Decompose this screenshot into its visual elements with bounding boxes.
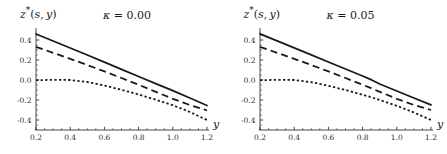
series-line-solid (260, 34, 431, 105)
y-tick-label: -0.4 (17, 116, 32, 125)
x-tick-label: 0.6 (98, 133, 110, 142)
y-tick-label: 0.4 (20, 36, 32, 45)
y-tick-label: 0.0 (243, 76, 255, 85)
x-axis-name: y (212, 118, 220, 131)
x-tick-label: 1.2 (201, 133, 213, 142)
panel-left-kappa-annotation: κ = 0.00 (103, 9, 151, 22)
panel-left-ylabel: z*(s, y) (20, 8, 56, 21)
series-line-dashed (260, 47, 431, 110)
x-tick-label: 0.8 (356, 133, 368, 142)
x-tick-label: 0.2 (254, 133, 266, 142)
series-line-dashed (36, 47, 207, 111)
x-tick-label: 0.4 (288, 133, 300, 142)
panel-left-plot-area: 0.20.40.60.81.01.20.40.20.0-0.2-0.4y (0, 26, 224, 154)
panel-left-header: z*(s, y) κ = 0.00 (0, 8, 224, 28)
panel-right-kappa-annotation: κ = 0.05 (327, 9, 375, 22)
y-tick-label: -0.2 (241, 96, 256, 105)
chart-panel-left: z*(s, y) κ = 0.00 0.20.40.60.81.01.20.40… (0, 0, 224, 154)
x-tick-label: 1.0 (390, 133, 402, 142)
series-line-dotted (36, 80, 207, 120)
kappa-value-right: 0.05 (350, 9, 375, 22)
kappa-symbol-left: κ (103, 9, 110, 22)
y-tick-label: 0.4 (243, 36, 255, 45)
kappa-equals-right: = (337, 9, 346, 22)
y-tick-label: 0.2 (243, 56, 255, 65)
series-line-dotted (260, 80, 431, 120)
x-tick-label: 0.6 (322, 133, 334, 142)
figure-two-panel-line-chart: z*(s, y) κ = 0.00 0.20.40.60.81.01.20.40… (0, 0, 447, 154)
panel-right-plot-area: 0.20.40.60.81.01.20.40.20.0-0.2-0.4y (224, 26, 447, 154)
kappa-equals-left: = (114, 9, 123, 22)
series-line-solid (36, 34, 207, 106)
panel-left-svg: 0.20.40.60.81.01.20.40.20.0-0.2-0.4y (0, 26, 224, 154)
panel-right-ylabel: z*(s, y) (244, 8, 280, 21)
y-tick-label: -0.2 (17, 96, 32, 105)
x-tick-label: 0.8 (133, 133, 145, 142)
y-tick-label: 0.2 (20, 56, 32, 65)
y-tick-label: -0.4 (241, 116, 256, 125)
x-tick-label: 0.4 (64, 133, 76, 142)
kappa-symbol-right: κ (327, 9, 334, 22)
kappa-value-left: 0.00 (126, 9, 151, 22)
x-tick-label: 1.0 (167, 133, 179, 142)
x-tick-label: 0.2 (30, 133, 42, 142)
x-axis-name: y (436, 118, 444, 131)
x-tick-label: 1.2 (425, 133, 437, 142)
panel-right-header: z*(s, y) κ = 0.05 (224, 8, 447, 28)
panel-right-svg: 0.20.40.60.81.01.20.40.20.0-0.2-0.4y (224, 26, 447, 154)
chart-panel-right: z*(s, y) κ = 0.05 0.20.40.60.81.01.20.40… (224, 0, 447, 154)
y-tick-label: 0.0 (20, 76, 32, 85)
